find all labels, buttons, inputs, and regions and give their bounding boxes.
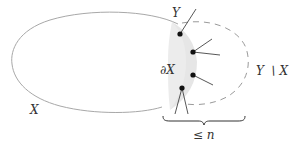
label-bound: ≤ n bbox=[193, 128, 215, 142]
point-p3 bbox=[190, 72, 195, 77]
edge-p3 bbox=[193, 75, 213, 85]
label-set-x: X bbox=[29, 103, 39, 117]
label-difference: Y ∖ X bbox=[256, 64, 289, 78]
point-p1 bbox=[177, 31, 182, 36]
label-set-y: Y bbox=[172, 6, 181, 20]
edge-p2b bbox=[193, 52, 220, 55]
point-p2 bbox=[190, 49, 195, 54]
set-x-ellipse bbox=[12, 12, 178, 112]
edge-p2a bbox=[193, 39, 212, 52]
point-p4 bbox=[179, 85, 184, 90]
curly-brace bbox=[163, 116, 245, 125]
label-boundary: ∂X bbox=[160, 63, 175, 77]
diagram-canvas: Y ∂X Y ∖ X X ≤ n bbox=[0, 0, 302, 144]
